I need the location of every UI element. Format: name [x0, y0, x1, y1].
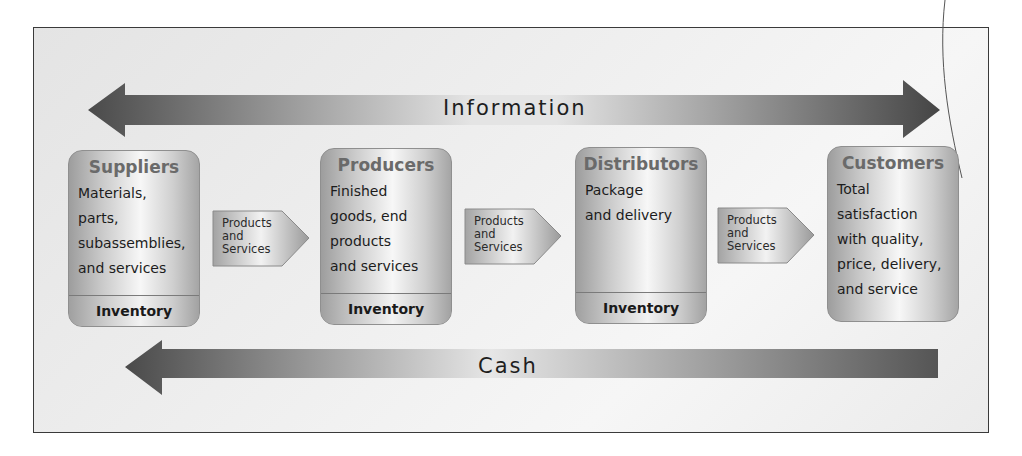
flow-line: Services — [222, 243, 272, 256]
description-line: Package — [585, 178, 706, 203]
description-line: Materials, — [78, 181, 199, 206]
description-line: Total — [837, 177, 958, 202]
stage-description: Package and delivery — [576, 174, 706, 228]
description-line: and services — [78, 256, 199, 281]
stage-suppliers: Suppliers Materials, parts, subassemblie… — [68, 150, 200, 327]
flow-arrow-3: Products and Services — [717, 207, 815, 264]
stage-customers: Customers Total satisfaction with qualit… — [827, 146, 959, 322]
flow-line: Services — [474, 241, 524, 254]
stage-title: Producers — [321, 155, 451, 175]
stage-description: Total satisfaction with quality, price, … — [828, 173, 958, 302]
description-line: Finished — [330, 179, 451, 204]
description-line: price, delivery, — [837, 252, 958, 277]
flow-arrow-2: Products and Services — [464, 208, 562, 265]
inventory-label: Inventory — [321, 293, 451, 324]
information-label: Information — [443, 96, 587, 120]
description-line: and service — [837, 277, 958, 302]
cash-label: Cash — [478, 354, 538, 378]
description-line: subassemblies, — [78, 231, 199, 256]
description-line: parts, — [78, 206, 199, 231]
flow-line: Services — [727, 240, 777, 253]
stage-description: Materials, parts, subassemblies, and ser… — [69, 177, 199, 281]
stage-title: Suppliers — [69, 157, 199, 177]
flow-label: Products and Services — [727, 214, 777, 253]
description-line: goods, end — [330, 204, 451, 229]
stage-distributors: Distributors Package and delivery Invent… — [575, 147, 707, 324]
stage-description: Finished goods, end products and service… — [321, 175, 451, 279]
stage-title: Distributors — [576, 154, 706, 174]
stage-title: Customers — [828, 153, 958, 173]
description-line: and delivery — [585, 203, 706, 228]
inventory-label: Inventory — [69, 295, 199, 326]
description-line: products — [330, 229, 451, 254]
flow-label: Products and Services — [222, 217, 272, 256]
flow-label: Products and Services — [474, 215, 524, 254]
flow-arrow-1: Products and Services — [212, 210, 310, 267]
stage-producers: Producers Finished goods, end products a… — [320, 148, 452, 325]
description-line: satisfaction — [837, 202, 958, 227]
inventory-label: Inventory — [576, 292, 706, 323]
description-line: and services — [330, 254, 451, 279]
description-line: with quality, — [837, 227, 958, 252]
